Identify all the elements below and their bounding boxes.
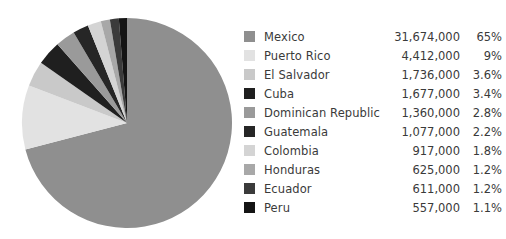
legend-label: Dominican Republic <box>264 106 388 120</box>
legend-label: Honduras <box>264 163 388 177</box>
legend-row[interactable]: El Salvador1,736,0003.6% <box>244 65 502 84</box>
legend-value: 611,000 <box>388 182 460 196</box>
legend-value: 31,674,000 <box>388 30 460 44</box>
legend-value: 1,360,000 <box>388 106 460 120</box>
legend-color-swatch <box>244 88 255 99</box>
legend-row[interactable]: Ecuador611,0001.2% <box>244 179 502 198</box>
legend-color-swatch <box>244 183 255 194</box>
legend-color-swatch <box>244 107 255 118</box>
legend-color-swatch <box>244 202 255 213</box>
legend-value: 625,000 <box>388 163 460 177</box>
legend-row[interactable]: Colombia917,0001.8% <box>244 141 502 160</box>
legend-color-swatch <box>244 126 255 137</box>
legend-row[interactable]: Cuba1,677,0003.4% <box>244 84 502 103</box>
legend-value: 917,000 <box>388 144 460 158</box>
legend-color-swatch <box>244 31 255 42</box>
legend-percent: 3.6% <box>460 68 502 82</box>
legend-color-swatch <box>244 69 255 80</box>
legend-percent: 2.2% <box>460 125 502 139</box>
legend-value: 1,736,000 <box>388 68 460 82</box>
legend-percent: 1.2% <box>460 163 502 177</box>
legend-row[interactable]: Mexico31,674,00065% <box>244 27 502 46</box>
legend-row[interactable]: Guatemala1,077,0002.2% <box>244 122 502 141</box>
legend-value: 1,077,000 <box>388 125 460 139</box>
legend-label: Cuba <box>264 87 388 101</box>
legend-value: 1,677,000 <box>388 87 460 101</box>
legend-value: 557,000 <box>388 201 460 215</box>
legend-percent: 9% <box>460 49 502 63</box>
legend-color-swatch <box>244 164 255 175</box>
legend-label: Puerto Rico <box>264 49 388 63</box>
legend-row[interactable]: Honduras625,0001.2% <box>244 160 502 179</box>
legend-label: Peru <box>264 201 388 215</box>
legend-percent: 1.2% <box>460 182 502 196</box>
pie-chart-graphic <box>20 16 235 231</box>
legend-percent: 3.4% <box>460 87 502 101</box>
legend-percent: 1.1% <box>460 201 502 215</box>
legend-percent: 2.8% <box>460 106 502 120</box>
legend-label: Colombia <box>264 144 388 158</box>
legend-label: Guatemala <box>264 125 388 139</box>
legend-percent: 1.8% <box>460 144 502 158</box>
pie-chart-figure: Mexico31,674,00065%Puerto Rico4,412,0009… <box>0 0 506 239</box>
legend-label: Mexico <box>264 30 388 44</box>
legend-color-swatch <box>244 145 255 156</box>
legend-percent: 65% <box>460 30 502 44</box>
legend-row[interactable]: Dominican Republic1,360,0002.8% <box>244 103 502 122</box>
legend-label: El Salvador <box>264 68 388 82</box>
legend-value: 4,412,000 <box>388 49 460 63</box>
legend-row[interactable]: Peru557,0001.1% <box>244 198 502 217</box>
legend-row[interactable]: Puerto Rico4,412,0009% <box>244 46 502 65</box>
chart-legend: Mexico31,674,00065%Puerto Rico4,412,0009… <box>244 27 502 217</box>
legend-label: Ecuador <box>264 182 388 196</box>
legend-color-swatch <box>244 50 255 61</box>
